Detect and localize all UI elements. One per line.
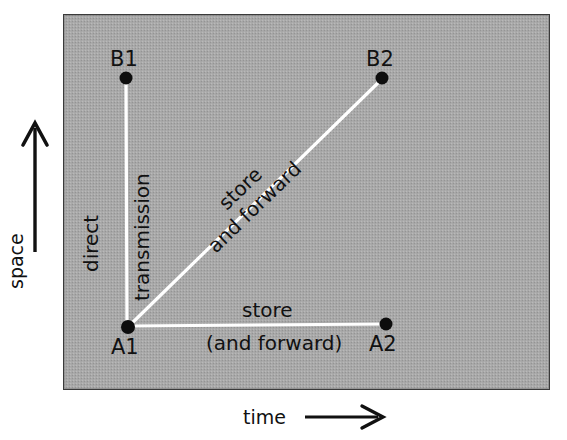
x-axis-label-time: time — [243, 408, 286, 427]
node-label-b1: B1 — [110, 49, 138, 70]
node-label-b2: B2 — [366, 49, 394, 70]
space-time-diagram: B1 B2 A1 A2 direct transmission store an… — [0, 0, 567, 440]
node-label-a2: A2 — [369, 334, 397, 355]
edge-label-and-forward-horizontal: (and forward) — [206, 333, 342, 353]
time-axis-arrow-icon — [305, 406, 383, 428]
edge-label-store-horizontal: store — [242, 300, 293, 320]
node-label-a1: A1 — [111, 337, 139, 358]
y-axis-label-space: space — [7, 233, 26, 289]
edge-label-transmission: transmission — [132, 173, 152, 301]
edge-label-direct: direct — [81, 215, 101, 272]
